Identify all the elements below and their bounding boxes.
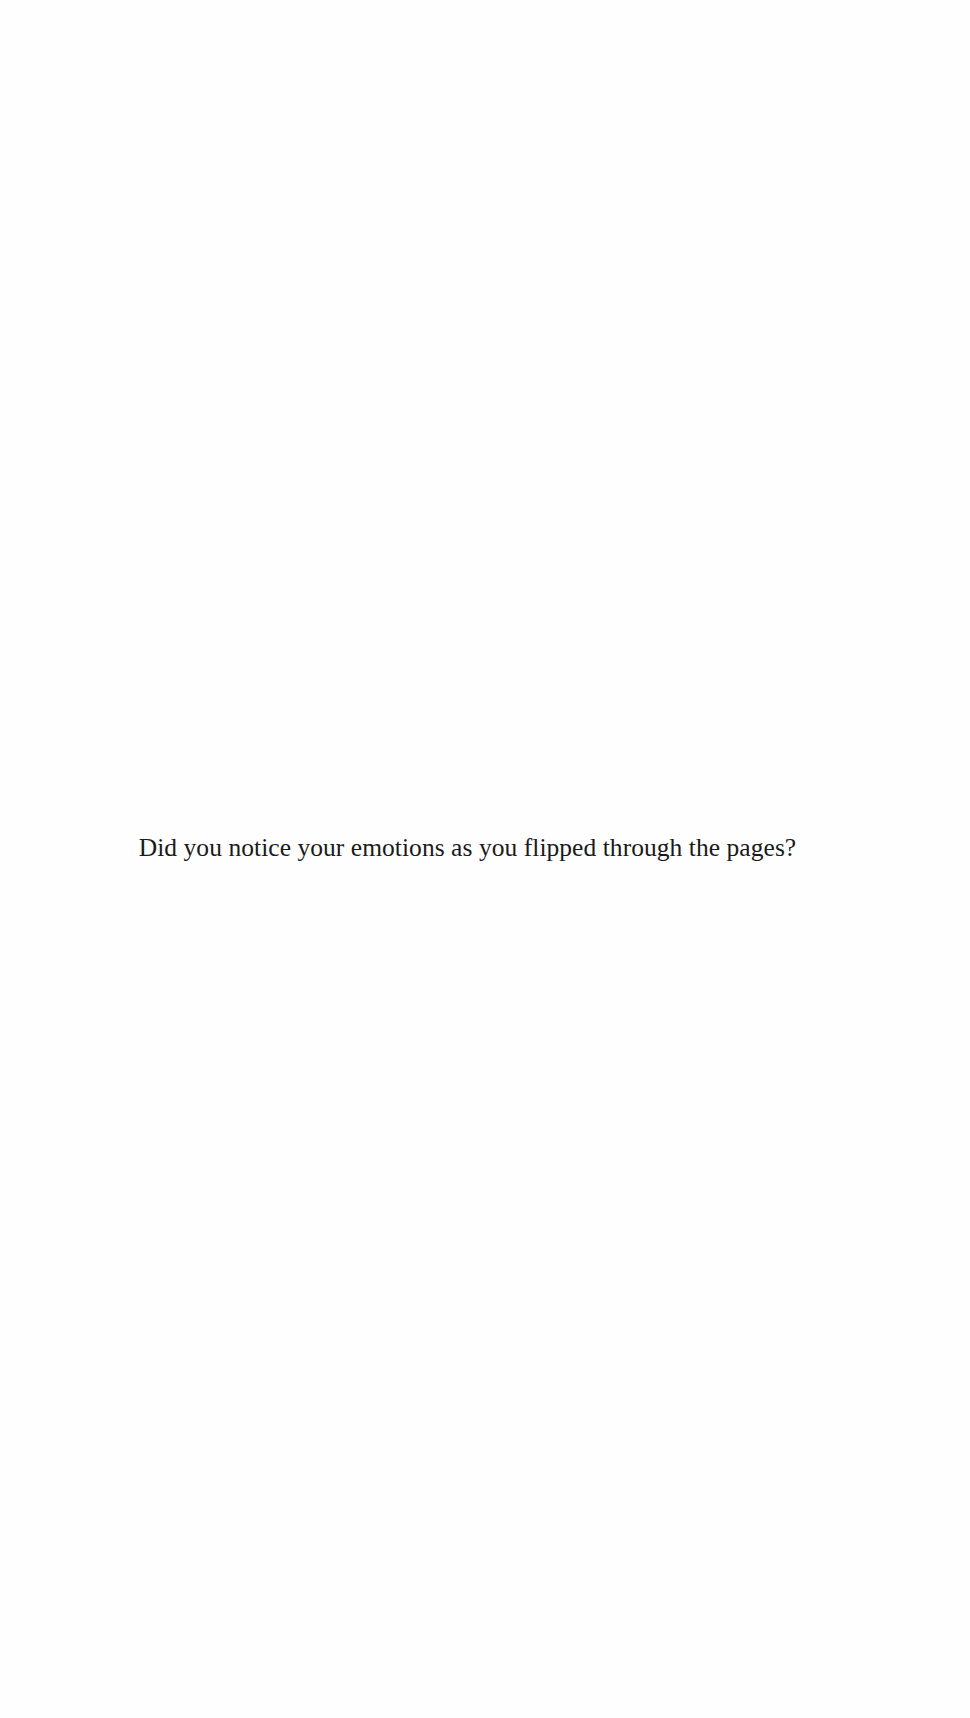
page-text: Did you notice your emotions as you flip… [0,831,935,865]
book-page: Did you notice your emotions as you flip… [0,0,970,1718]
